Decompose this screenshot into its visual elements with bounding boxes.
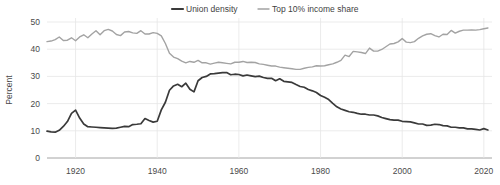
x-tick-label: 2000 [393,166,412,176]
y-tick-label: 20 [31,99,41,109]
gridlines [47,18,492,158]
x-tick-label: 1980 [311,166,330,176]
y-tick-label: 50 [31,17,41,27]
x-axis-tick-labels: 192019401960198020002020 [66,166,493,176]
x-tick-label: 1940 [148,166,167,176]
line-chart: Union density Top 10% income share 01020… [0,0,500,185]
x-tick-label: 1960 [229,166,248,176]
y-tick-label: 0 [35,153,40,163]
y-tick-label: 40 [31,44,41,54]
y-axis-tick-labels: 01020304050 [31,17,41,163]
legend: Union density Top 10% income share [172,4,359,14]
series-lines [47,28,488,132]
y-axis-title: Percent [4,75,14,105]
series-line-union-density [47,73,488,133]
y-tick-label: 30 [31,71,41,81]
chart-container: Union density Top 10% income share 01020… [0,0,500,185]
x-tick-label: 1920 [66,166,85,176]
series-line-top-10-income-share [47,28,488,69]
y-tick-label: 10 [31,126,41,136]
legend-label-top-10-income-share: Top 10% income share [272,4,359,14]
x-tick-label: 2020 [474,166,493,176]
legend-label-union-density: Union density [186,4,238,14]
